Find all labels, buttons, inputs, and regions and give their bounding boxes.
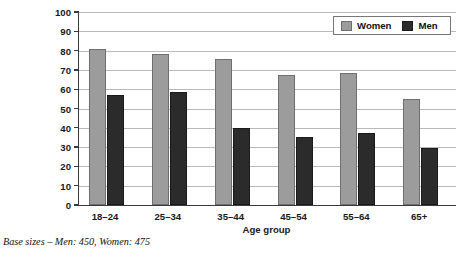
- bar-men-55-64[interactable]: [358, 133, 375, 205]
- x-axis-tick-label: 45–54: [263, 211, 325, 222]
- x-axis-title: Age group: [78, 224, 455, 235]
- bar-women-18-24[interactable]: [89, 49, 106, 205]
- bar-women-35-44[interactable]: [215, 59, 232, 205]
- y-axis-tick-label: 0: [66, 200, 71, 211]
- bar-women-55-64[interactable]: [340, 73, 357, 205]
- bar-series-container: 18–2425–3435–4445–5455–6465+: [79, 12, 456, 205]
- y-axis-tick-label: 60: [60, 84, 71, 95]
- chart-legend: WomenMen: [333, 16, 451, 35]
- y-axis-tick-label: 100: [55, 7, 71, 18]
- x-axis-tick-label: 35–44: [200, 211, 262, 222]
- x-axis-tick-label: 18–24: [74, 211, 136, 222]
- bar-group: 35–44: [205, 12, 268, 205]
- bar-group: 55–64: [330, 12, 393, 205]
- bar-group: 45–54: [268, 12, 331, 205]
- legend-label: Women: [357, 20, 391, 31]
- y-axis-tick-label: 40: [60, 122, 71, 133]
- y-axis-tick-label: 30: [60, 142, 71, 153]
- legend-swatch-men-icon: [402, 21, 413, 31]
- legend-swatch-women-icon: [341, 21, 352, 31]
- legend-item-men[interactable]: Men: [402, 20, 437, 31]
- bar-women-25-34[interactable]: [152, 54, 169, 206]
- bar-group: 65+: [393, 12, 456, 205]
- bar-women-65+[interactable]: [403, 99, 420, 205]
- x-axis-tick-label: 65+: [388, 211, 450, 222]
- legend-label: Men: [418, 20, 437, 31]
- plot-area: 0102030405060708090100 18–2425–3435–4445…: [78, 12, 456, 206]
- y-axis-tick-label: 90: [60, 26, 71, 37]
- bar-men-35-44[interactable]: [233, 128, 250, 205]
- y-axis-tick-label: 20: [60, 161, 71, 172]
- chart-figure: Percentage answering 'Yes' to question 0…: [0, 0, 461, 257]
- y-axis-tick-label: 10: [60, 180, 71, 191]
- base-sizes-footnote: Base sizes – Men: 450, Women: 475: [3, 236, 150, 247]
- y-axis-tick-label: 80: [60, 45, 71, 56]
- x-axis-tick-label: 25–34: [137, 211, 199, 222]
- legend-item-women[interactable]: Women: [341, 20, 391, 31]
- bar-men-25-34[interactable]: [170, 92, 187, 205]
- bar-men-18-24[interactable]: [107, 95, 124, 205]
- y-axis-tick-label: 70: [60, 64, 71, 75]
- bar-men-65+[interactable]: [421, 148, 438, 205]
- y-axis-tick-label: 50: [60, 103, 71, 114]
- bar-group: 18–24: [79, 12, 142, 205]
- bar-women-45-54[interactable]: [278, 75, 295, 205]
- bar-men-45-54[interactable]: [296, 137, 313, 206]
- bar-group: 25–34: [142, 12, 205, 205]
- x-axis-tick-label: 55–64: [325, 211, 387, 222]
